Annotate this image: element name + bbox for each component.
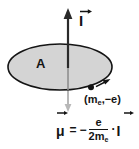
physics-figure: I A (me,−e) μ = − e 2me · I: [0, 0, 139, 149]
formula-equals: =: [70, 123, 77, 137]
formula-minus-sign: −: [80, 123, 87, 137]
area-label: A: [36, 57, 45, 70]
electron-label-charge: ,−e): [102, 93, 121, 105]
current-vector-label: I: [79, 13, 83, 28]
formula-denominator-subscript: e: [105, 136, 109, 143]
current-loop-ellipse: [8, 44, 112, 90]
formula-denominator: 2me: [89, 130, 109, 142]
formula-current-vector: I: [116, 123, 120, 139]
electron-label-open: (m: [84, 93, 97, 105]
vector-arrow-rhs-current: [124, 111, 134, 115]
formula-mu-symbol: μ: [56, 123, 65, 139]
formula-fraction: e 2me: [89, 117, 109, 142]
formula-numerator: e: [95, 117, 101, 129]
vector-arrow-mu: [57, 111, 68, 115]
magnetic-moment-formula: μ = − e 2me · I: [56, 117, 120, 142]
formula-dot-operator: ·: [111, 122, 115, 136]
electron-label: (me,−e): [84, 94, 121, 105]
formula-denominator-main: 2m: [89, 130, 105, 142]
electron-dot: [88, 84, 94, 90]
electron-label-subscript: e: [97, 98, 101, 107]
